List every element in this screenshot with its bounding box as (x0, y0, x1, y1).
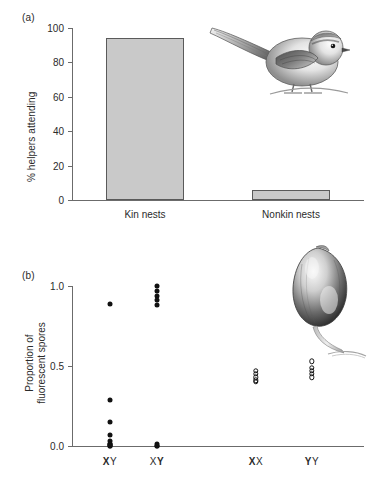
panel-b-data-point (108, 444, 113, 449)
panel-b-tag: (b) (22, 270, 35, 281)
panel-a-bar (106, 38, 184, 200)
panel-a-y-tick-label: 40 (38, 126, 64, 137)
panel-a-x-tick-label: Nonkin nests (262, 209, 320, 220)
panel-b-data-point (309, 374, 314, 379)
panel-b-y-tick-label: 0.5 (36, 361, 64, 372)
panel-b-data-point (155, 444, 160, 449)
panel-a-bar-chart: (a) % helpers attending 020406080100 Kin… (0, 0, 376, 242)
panel-b-data-point (108, 397, 113, 402)
panel-b-data-point (108, 432, 113, 437)
panel-a-y-tick (68, 97, 72, 98)
panel-a-y-tick (68, 62, 72, 63)
panel-b-x-tick-label-part: Y (110, 456, 117, 467)
panel-a-x-axis (72, 200, 364, 201)
panel-b-y-axis (72, 286, 73, 446)
panel-b-data-point (108, 301, 113, 306)
panel-b-y-tick-label: 1.0 (36, 281, 64, 292)
panel-b-x-axis (72, 446, 364, 447)
panel-b-x-tick-label: XX (249, 456, 263, 467)
panel-a-y-tick-label: 80 (38, 57, 64, 68)
panel-b-x-tick-label: XY (150, 456, 164, 467)
panel-b-data-point (253, 379, 258, 384)
panel-b-y-tick-label: 0.0 (36, 441, 64, 452)
panel-b-data-point (108, 420, 113, 425)
panel-a-y-axis (72, 28, 73, 200)
panel-a-y-tick (68, 200, 72, 201)
panel-b-y-tick (68, 366, 72, 367)
panel-a-y-tick-label: 20 (38, 160, 64, 171)
panel-b-x-tick-label: YY (305, 456, 319, 467)
panel-a-y-axis-label: % helpers attending (26, 92, 37, 182)
panel-a-y-tick (68, 28, 72, 29)
panel-a-y-tick-label: 60 (38, 91, 64, 102)
panel-a-tag: (a) (22, 12, 35, 23)
panel-b-x-tick-label-part: X (256, 456, 263, 467)
panel-a-bar (252, 190, 330, 200)
panel-b-y-axis-label-line1: Proportion of (24, 334, 35, 391)
panel-b-x-tick-label: XY (103, 456, 117, 467)
panel-a-x-tick-label: Kin nests (124, 209, 165, 220)
panel-b-dot-plot: (b) Proportion of fluorescent spores 0.0… (0, 242, 376, 484)
long-tailed-tit-bird-illustration (206, 14, 356, 98)
slime-mold-fruiting-body-illustration (272, 242, 368, 360)
panel-b-y-tick (68, 446, 72, 447)
panel-b-x-tick-label-part: Y (157, 456, 164, 467)
panel-a-y-tick (68, 166, 72, 167)
panel-a-y-tick-label: 100 (38, 23, 64, 34)
panel-b-x-tick-label-part: Y (312, 456, 319, 467)
panel-a-y-tick-label: 0 (38, 195, 64, 206)
panel-a-y-tick (68, 131, 72, 132)
panel-b-data-point (155, 303, 160, 308)
panel-b-y-tick (68, 286, 72, 287)
